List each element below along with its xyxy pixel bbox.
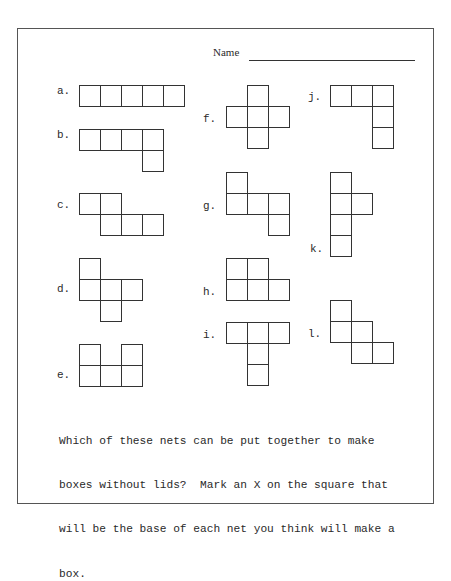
net-square[interactable] bbox=[227, 173, 248, 194]
net-square[interactable] bbox=[80, 366, 101, 387]
net-square[interactable] bbox=[269, 107, 290, 128]
net-square[interactable] bbox=[227, 194, 248, 215]
net-square[interactable] bbox=[248, 107, 269, 128]
net-square[interactable] bbox=[101, 215, 122, 236]
net-square[interactable] bbox=[80, 194, 101, 215]
net-a bbox=[80, 86, 185, 107]
net-square[interactable] bbox=[331, 194, 352, 215]
net-square[interactable] bbox=[101, 86, 122, 107]
net-square[interactable] bbox=[373, 343, 394, 364]
net-d bbox=[80, 259, 143, 322]
net-square[interactable] bbox=[269, 323, 290, 344]
net-square[interactable] bbox=[122, 130, 143, 151]
net-square[interactable] bbox=[227, 323, 248, 344]
net-k bbox=[331, 173, 373, 257]
net-j bbox=[331, 86, 394, 149]
net-square[interactable] bbox=[101, 301, 122, 322]
net-label: b. bbox=[57, 129, 70, 141]
net-square[interactable] bbox=[248, 323, 269, 344]
net-square[interactable] bbox=[143, 86, 164, 107]
net-square[interactable] bbox=[331, 86, 352, 107]
net-square[interactable] bbox=[269, 215, 290, 236]
net-label: l. bbox=[308, 328, 321, 340]
net-square[interactable] bbox=[122, 86, 143, 107]
net-square[interactable] bbox=[143, 215, 164, 236]
instructions-line: box. bbox=[59, 567, 419, 581]
net-h bbox=[227, 259, 290, 301]
net-label: e. bbox=[57, 369, 70, 381]
net-f bbox=[227, 86, 290, 149]
net-square[interactable] bbox=[248, 259, 269, 280]
net-square[interactable] bbox=[331, 322, 352, 343]
net-square[interactable] bbox=[122, 345, 143, 366]
net-c bbox=[80, 194, 164, 236]
net-e bbox=[80, 345, 143, 387]
net-square[interactable] bbox=[227, 259, 248, 280]
net-square[interactable] bbox=[248, 128, 269, 149]
net-square[interactable] bbox=[101, 194, 122, 215]
net-square[interactable] bbox=[122, 280, 143, 301]
net-square[interactable] bbox=[143, 151, 164, 172]
net-label: f. bbox=[203, 113, 216, 125]
net-square[interactable] bbox=[248, 280, 269, 301]
net-label: g. bbox=[203, 200, 216, 212]
net-square[interactable] bbox=[248, 344, 269, 365]
net-l bbox=[331, 301, 394, 364]
net-label: c. bbox=[57, 199, 70, 211]
net-label: j. bbox=[308, 91, 321, 103]
net-i bbox=[227, 323, 290, 386]
net-square[interactable] bbox=[80, 86, 101, 107]
net-square[interactable] bbox=[80, 345, 101, 366]
net-square[interactable] bbox=[80, 280, 101, 301]
instructions-line: will be the base of each net you think w… bbox=[59, 522, 419, 537]
net-square[interactable] bbox=[227, 107, 248, 128]
net-label: h. bbox=[203, 286, 216, 298]
net-square[interactable] bbox=[373, 128, 394, 149]
net-square[interactable] bbox=[352, 86, 373, 107]
net-square[interactable] bbox=[122, 215, 143, 236]
net-square[interactable] bbox=[373, 107, 394, 128]
net-label: i. bbox=[203, 329, 216, 341]
net-square[interactable] bbox=[269, 194, 290, 215]
net-label: d. bbox=[57, 283, 70, 295]
instructions-line: boxes without lids? Mark an X on the squ… bbox=[59, 478, 419, 493]
instructions-text: Which of these nets can be put together … bbox=[59, 404, 419, 581]
net-square[interactable] bbox=[248, 86, 269, 107]
net-square[interactable] bbox=[80, 259, 101, 280]
net-square[interactable] bbox=[80, 130, 101, 151]
net-square[interactable] bbox=[373, 86, 394, 107]
instructions-line: Which of these nets can be put together … bbox=[59, 434, 419, 449]
net-square[interactable] bbox=[352, 322, 373, 343]
net-square[interactable] bbox=[101, 366, 122, 387]
net-g bbox=[227, 173, 290, 236]
net-square[interactable] bbox=[331, 236, 352, 257]
net-square[interactable] bbox=[248, 194, 269, 215]
net-square[interactable] bbox=[331, 173, 352, 194]
net-square[interactable] bbox=[331, 215, 352, 236]
net-label: a. bbox=[57, 85, 70, 97]
net-square[interactable] bbox=[227, 280, 248, 301]
net-square[interactable] bbox=[331, 301, 352, 322]
net-label: k. bbox=[310, 243, 323, 255]
net-square[interactable] bbox=[164, 86, 185, 107]
net-square[interactable] bbox=[352, 343, 373, 364]
net-square[interactable] bbox=[143, 130, 164, 151]
net-square[interactable] bbox=[269, 280, 290, 301]
net-square[interactable] bbox=[352, 194, 373, 215]
net-square[interactable] bbox=[122, 366, 143, 387]
net-square[interactable] bbox=[248, 365, 269, 386]
net-square[interactable] bbox=[101, 280, 122, 301]
net-b bbox=[80, 130, 164, 172]
net-square[interactable] bbox=[101, 130, 122, 151]
